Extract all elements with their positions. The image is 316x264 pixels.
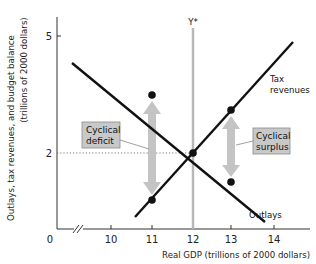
x-tick-label-11: 11 <box>146 234 159 245</box>
y-axis-title-line2: (trillions of 2000 dollars) <box>19 17 29 122</box>
x-tick-label-0: 0 <box>47 234 53 245</box>
tax-revenues-label-line2: revenues <box>270 85 310 95</box>
surplus-label-line2: surplus <box>256 142 289 152</box>
deficit-label-line2: deficit <box>86 136 114 146</box>
cyclical-surplus-box: Cyclical surplus <box>253 128 291 154</box>
surplus-label-line1: Cyclical <box>256 131 291 141</box>
budget-chart: 5 2 0 10 11 12 13 14 Real GDP (trillions… <box>0 0 316 264</box>
x-tick-label-12: 12 <box>187 234 200 245</box>
x-tick-label-14: 14 <box>268 234 281 245</box>
potential-gdp-label: Y* <box>187 17 198 27</box>
tax-revenues-label-line1: Tax <box>269 74 284 84</box>
x-axis-title: Real GDP (trillions of 2000 dollars) <box>162 250 310 260</box>
y-axis-title-line1: Outlays, tax revenues, and budget balanc… <box>6 35 16 221</box>
axis-break-icon <box>73 224 83 234</box>
y-tick-label-5: 5 <box>46 31 52 42</box>
x-tick-label-13: 13 <box>225 234 238 245</box>
cyclical-deficit-box: Cyclical deficit <box>82 122 121 148</box>
deficit-leader-line <box>120 140 149 149</box>
cyclical-surplus-arrow <box>222 116 240 177</box>
surplus-leader-line <box>236 141 253 145</box>
y-tick-label-2: 2 <box>46 148 52 159</box>
outlays-label: Outlays <box>249 210 282 220</box>
x-tick-label-10: 10 <box>105 234 118 245</box>
deficit-label-line1: Cyclical <box>86 125 121 135</box>
